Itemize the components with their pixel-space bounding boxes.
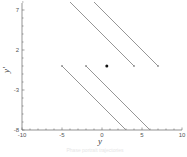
x-tick-label: 10 (179, 132, 186, 138)
figure-caption: Phase portrait trajectories (30, 147, 160, 153)
equilibrium-point (105, 65, 108, 68)
y-axis-title: y' (1, 66, 11, 74)
x-tick-label: -10 (18, 132, 27, 138)
endpoint-marker (85, 65, 87, 67)
trajectory-line (70, 2, 134, 66)
x-tick-label: -5 (59, 132, 65, 138)
trajectory-line (62, 66, 126, 130)
x-tick-label: 5 (140, 132, 144, 138)
y-tick-label: -8 (14, 127, 20, 133)
x-axis-title: y (97, 136, 102, 146)
trajectories (61, 2, 159, 130)
trajectory-line (86, 66, 150, 130)
y-tick-label: 7 (16, 7, 20, 13)
endpoint-marker (61, 65, 63, 67)
trajectory-line (94, 2, 158, 66)
phase-plot: -10-5051072-3-8 y y' (0, 0, 187, 157)
y-tick-label: -3 (14, 87, 20, 93)
endpoint-marker (133, 65, 135, 67)
y-tick-label: 2 (16, 47, 20, 53)
endpoint-marker (157, 65, 159, 67)
tick-labels: -10-5051072-3-8 (14, 7, 186, 138)
